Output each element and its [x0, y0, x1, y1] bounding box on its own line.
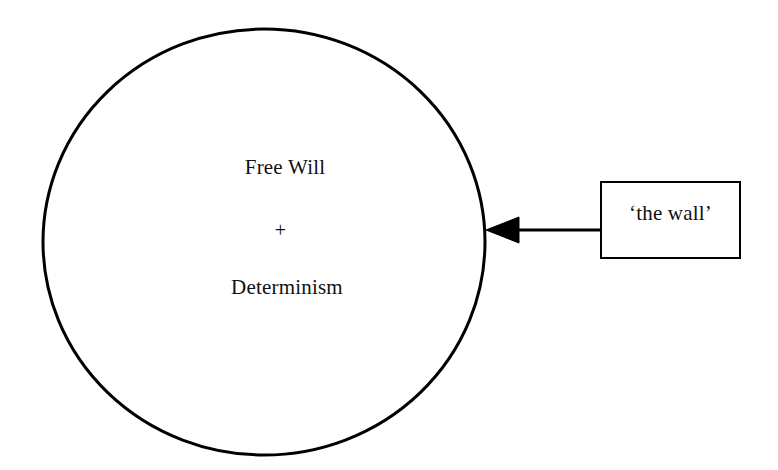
diagram-canvas: Free Will + Determinism ‘the wall’	[0, 0, 778, 470]
circle-label-operator: +	[0, 220, 561, 240]
free-will-determinism-circle	[43, 29, 485, 455]
the-wall-box-label: ‘the wall’	[601, 203, 740, 224]
circle-label-bottom: Determinism	[0, 277, 574, 298]
circle-label-top: Free Will	[0, 157, 570, 178]
